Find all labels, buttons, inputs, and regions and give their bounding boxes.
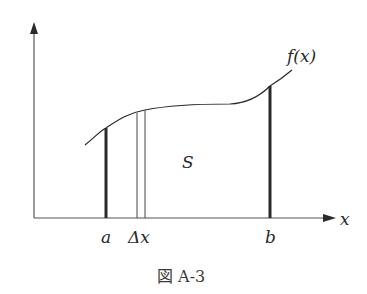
function-label: f(x) [285,46,316,66]
figure-caption: 図 A-3 [157,267,205,286]
integral-diagram: f(x) S x a Δx b 図 A-3 [0,0,367,294]
area-label: S [182,152,194,172]
lower-bound-label: a [101,227,111,247]
delta-label: Δx [127,227,150,247]
function-curve [85,70,292,145]
upper-bound-label: b [265,227,276,247]
x-axis-arrow-icon [323,214,336,222]
x-axis-label: x [340,209,350,229]
y-axis-arrow-icon [30,22,38,34]
